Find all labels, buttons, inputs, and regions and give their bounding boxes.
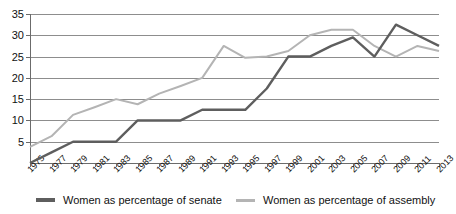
y-axis-line: [30, 14, 31, 164]
plot-area: [30, 14, 439, 163]
gridline: [30, 35, 439, 36]
y-tick-label: 25: [0, 51, 24, 62]
y-tick-mark: [26, 120, 30, 121]
y-tick-mark: [26, 78, 30, 79]
y-tick-mark: [26, 99, 30, 100]
y-tick-label: 10: [0, 115, 24, 126]
legend-entry-assembly: Women as percentage of assembly: [236, 194, 435, 206]
legend-label-assembly: Women as percentage of assembly: [263, 194, 435, 206]
y-tick-label: 5: [0, 136, 24, 147]
y-tick-mark: [26, 142, 30, 143]
gridline: [30, 120, 439, 121]
y-tick-label: 35: [0, 9, 24, 20]
y-tick-mark: [26, 14, 30, 15]
chart-legend: Women as percentage of senate Women as p…: [0, 194, 447, 214]
gridline: [30, 57, 439, 58]
gridline: [30, 99, 439, 100]
gridline: [30, 78, 439, 79]
legend-swatch-senate-icon: [36, 198, 55, 202]
legend-entry-senate: Women as percentage of senate: [36, 194, 222, 206]
y-tick-mark: [26, 57, 30, 58]
y-tick-label: 20: [0, 72, 24, 83]
gridline: [30, 142, 439, 143]
legend-swatch-assembly-icon: [236, 199, 255, 202]
y-tick-label: 30: [0, 30, 24, 41]
y-tick-label: 15: [0, 94, 24, 105]
gridline: [30, 14, 439, 15]
y-tick-mark: [26, 35, 30, 36]
legend-label-senate: Women as percentage of senate: [63, 194, 222, 206]
